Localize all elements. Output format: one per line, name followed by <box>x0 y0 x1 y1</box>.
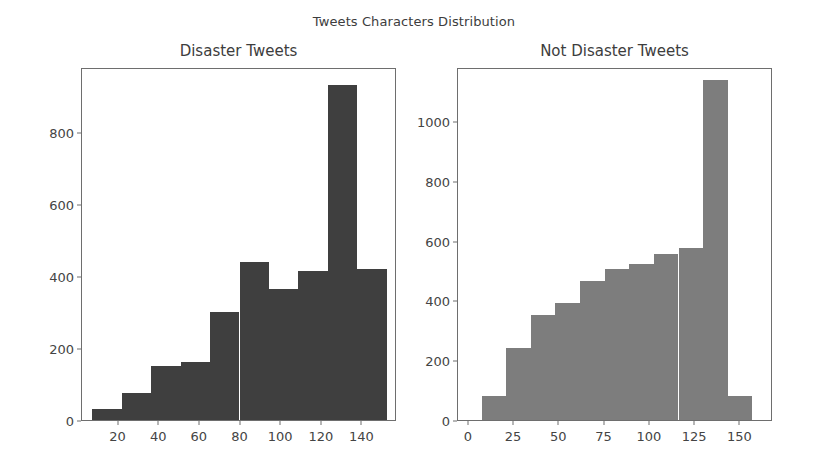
histogram-bar <box>728 396 753 420</box>
x-tick-mark <box>603 421 604 425</box>
x-tick-label: 80 <box>231 429 248 444</box>
x-tick-label: 20 <box>109 429 126 444</box>
histogram-bar <box>240 262 269 420</box>
y-tick-label: 0 <box>66 414 74 429</box>
subplot-title-left: Disaster Tweets <box>81 42 396 60</box>
y-tick-label: 200 <box>49 341 74 356</box>
y-tick-mark <box>453 241 457 242</box>
y-tick-label: 600 <box>425 234 450 249</box>
x-tick-label: 25 <box>505 429 522 444</box>
x-tick-mark <box>513 421 514 425</box>
x-tick-label: 60 <box>191 429 208 444</box>
subplot-not-disaster-tweets: Not Disaster Tweets 02004006008001000 02… <box>457 68 772 421</box>
histogram-bar <box>298 271 327 420</box>
x-tick-label: 75 <box>595 429 612 444</box>
y-tick-label: 400 <box>425 294 450 309</box>
histogram-bar <box>531 315 556 420</box>
y-tick-label: 1000 <box>417 114 450 129</box>
x-tick-label: 120 <box>308 429 333 444</box>
figure-canvas: Tweets Characters Distribution Disaster … <box>0 0 828 470</box>
x-tick-label: 50 <box>550 429 567 444</box>
x-tick-mark <box>117 421 118 425</box>
subplot-title-right: Not Disaster Tweets <box>457 42 772 60</box>
y-tick-mark <box>453 181 457 182</box>
histogram-bar <box>269 289 298 420</box>
histogram-bar <box>555 303 580 420</box>
x-tick-mark <box>558 421 559 425</box>
x-tick-mark <box>739 421 740 425</box>
x-tick-mark <box>198 421 199 425</box>
y-tick-mark <box>77 421 81 422</box>
histogram-bar <box>703 80 728 420</box>
y-tick-mark <box>77 204 81 205</box>
y-tick-label: 0 <box>442 414 450 429</box>
histogram-bar <box>92 409 121 420</box>
y-tick-mark <box>453 301 457 302</box>
figure-suptitle: Tweets Characters Distribution <box>0 14 828 29</box>
histogram-bar <box>210 312 239 420</box>
x-tick-mark <box>694 421 695 425</box>
histogram-bars-left <box>82 69 395 420</box>
x-tick-mark <box>648 421 649 425</box>
y-tick-mark <box>453 421 457 422</box>
histogram-bar <box>506 348 531 420</box>
x-tick-mark <box>467 421 468 425</box>
x-tick-label: 125 <box>682 429 707 444</box>
y-tick-label: 400 <box>49 269 74 284</box>
x-tick-label: 150 <box>727 429 752 444</box>
y-tick-mark <box>453 361 457 362</box>
x-tick-mark <box>280 421 281 425</box>
histogram-bar <box>629 264 654 420</box>
x-tick-label: 40 <box>150 429 167 444</box>
histogram-bar <box>151 366 180 420</box>
histogram-bar <box>580 281 605 420</box>
y-tick-mark <box>77 276 81 277</box>
x-tick-mark <box>320 421 321 425</box>
y-tick-label: 600 <box>49 197 74 212</box>
histogram-bar <box>181 362 210 420</box>
histogram-bars-right <box>458 69 771 420</box>
x-tick-label: 100 <box>636 429 661 444</box>
histogram-bar <box>679 248 704 420</box>
x-tick-label: 100 <box>268 429 293 444</box>
histogram-bar <box>357 269 386 420</box>
y-tick-label: 800 <box>425 174 450 189</box>
x-tick-mark <box>239 421 240 425</box>
axes-frame-left <box>81 68 396 421</box>
histogram-bar <box>482 396 507 420</box>
y-tick-mark <box>77 348 81 349</box>
axes-frame-right <box>457 68 772 421</box>
y-tick-label: 800 <box>49 125 74 140</box>
subplot-disaster-tweets: Disaster Tweets 0200400600800 2040608010… <box>81 68 396 421</box>
histogram-bar <box>328 85 357 420</box>
x-tick-label: 140 <box>349 429 374 444</box>
histogram-bar <box>122 393 151 420</box>
x-tick-label: 0 <box>464 429 472 444</box>
histogram-bar <box>605 269 630 420</box>
x-tick-mark <box>158 421 159 425</box>
histogram-bar <box>654 254 679 420</box>
y-tick-mark <box>77 132 81 133</box>
y-tick-mark <box>453 121 457 122</box>
x-tick-mark <box>361 421 362 425</box>
y-tick-label: 200 <box>425 354 450 369</box>
